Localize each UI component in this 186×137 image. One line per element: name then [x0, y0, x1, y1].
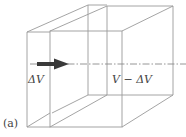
slab-bottom-left-recede [27, 113, 50, 127]
slab-volume-label: ΔV [28, 74, 44, 85]
box-bottom-right-recede [122, 95, 173, 127]
arrow-right-icon [37, 59, 69, 70]
box-top-right-recede [122, 6, 173, 31]
panel-label: (a) [3, 118, 18, 129]
slab-bottom-inner-recede [52, 95, 88, 113]
remaining-volume-label: V − ΔV [112, 74, 152, 85]
box-slab-figure [0, 0, 186, 137]
